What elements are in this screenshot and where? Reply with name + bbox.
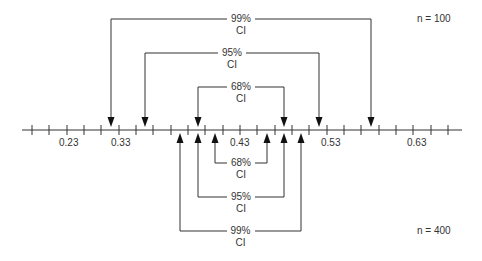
arrow-up-icon (264, 133, 271, 143)
arrow-down-icon (281, 117, 288, 127)
ci-level: 95% (220, 47, 244, 59)
ci-text: CI (229, 237, 253, 249)
arrow-down-icon (316, 117, 323, 127)
ci-label: 99%CI (227, 225, 255, 249)
arrow-down-icon (368, 117, 375, 127)
arrow-up-icon (177, 133, 184, 143)
arrow-up-icon (298, 133, 305, 143)
ci-level: 68% (229, 81, 253, 93)
ci-text: CI (229, 169, 253, 181)
ci-level: 95% (229, 191, 253, 203)
ci-label: 95%CI (218, 47, 246, 71)
ci-level: 99% (229, 225, 253, 237)
ci-text: CI (229, 203, 253, 215)
axis-tick-label: 0.33 (111, 137, 130, 148)
axis-tick-label: 0.43 (230, 137, 249, 148)
arrow-down-icon (195, 117, 202, 127)
ci-level: 68% (229, 157, 253, 169)
arrow-up-icon (281, 133, 288, 143)
arrow-up-icon (212, 133, 219, 143)
arrow-down-icon (108, 117, 115, 127)
arrow-up-icon (195, 133, 202, 143)
sample-size-label-top: n = 100 (417, 13, 451, 24)
ci-diagram (0, 0, 482, 261)
axis-tick-label: 0.23 (59, 137, 78, 148)
ci-label: 95%CI (227, 191, 255, 215)
ci-level: 99% (229, 13, 253, 25)
ci-label: 68%CI (227, 157, 255, 181)
axis-tick-label: 0.53 (321, 137, 340, 148)
ci-label: 68%CI (227, 81, 255, 105)
axis-tick-label: 0.63 (407, 137, 426, 148)
arrow-down-icon (142, 117, 149, 127)
sample-size-label-bottom: n = 400 (417, 225, 451, 236)
ci-text: CI (229, 25, 253, 37)
ci-text: CI (229, 93, 253, 105)
ci-text: CI (220, 59, 244, 71)
ci-label: 99%CI (227, 13, 255, 37)
